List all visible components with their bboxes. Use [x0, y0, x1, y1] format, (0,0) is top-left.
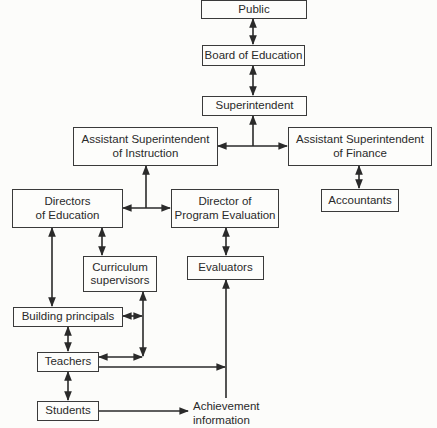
node-building-principals: Building principals — [13, 307, 123, 327]
node-board-of-education: Board of Education — [202, 45, 305, 66]
node-evaluators-label: Evaluators — [198, 261, 252, 275]
node-asst-supt-finance: Assistant Superintendent of Finance — [288, 127, 432, 166]
node-building-principals-label: Building principals — [22, 310, 115, 324]
node-asst-finance-label: Assistant Superintendent of Finance — [296, 133, 424, 160]
node-accountants-label: Accountants — [328, 194, 391, 208]
node-director-program-evaluation: Director of Program Evaluation — [171, 189, 279, 228]
node-students-label: Students — [45, 404, 90, 418]
node-teachers: Teachers — [37, 352, 99, 372]
node-superintendent: Superintendent — [202, 96, 307, 116]
node-directors-of-education: Directors of Education — [12, 189, 123, 228]
node-asst-instruction-label: Assistant Superintendent of Instruction — [82, 133, 210, 160]
node-teachers-label: Teachers — [45, 355, 92, 369]
node-accountants: Accountants — [321, 189, 399, 212]
node-asst-supt-instruction: Assistant Superintendent of Instruction — [73, 127, 218, 166]
node-public: Public — [201, 0, 307, 19]
node-directors-education-label: Directors of Education — [36, 195, 100, 222]
node-students: Students — [37, 401, 99, 421]
node-director-program-eval-label: Director of Program Evaluation — [175, 195, 276, 222]
node-curriculum-supervisors: Curriculum supervisors — [83, 256, 157, 292]
achievement-information-label: Achievement information — [193, 400, 259, 427]
node-curriculum-label: Curriculum supervisors — [91, 261, 150, 288]
node-board-label: Board of Education — [205, 49, 303, 63]
node-evaluators: Evaluators — [187, 256, 264, 280]
node-superintendent-label: Superintendent — [215, 99, 293, 113]
node-public-label: Public — [238, 3, 269, 17]
